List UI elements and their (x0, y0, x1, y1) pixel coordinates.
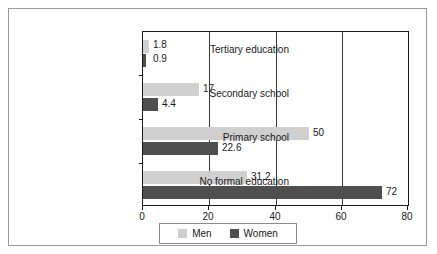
bar-men (143, 40, 149, 53)
category-label-tertiary: Tertiary education (210, 44, 289, 55)
legend-swatch-men-icon (178, 229, 187, 238)
bar-women (143, 186, 382, 199)
bar-women (143, 98, 158, 111)
chart-frame: 1.8 0.9 17 4.4 50 22.6 31.2 72 Tertiary … (8, 8, 427, 246)
bar-value-label: 0.9 (153, 54, 167, 64)
x-tick-label: 80 (401, 212, 412, 222)
category-label-no-formal: No formal education (200, 176, 290, 187)
chart-legend: Men Women (159, 223, 297, 244)
x-tick-label: 60 (335, 212, 346, 222)
x-tick (208, 206, 209, 210)
bar-men (143, 83, 199, 96)
bar-value-label: 22.6 (222, 143, 241, 153)
x-tick (142, 206, 143, 210)
legend-swatch-women-icon (230, 229, 239, 238)
x-tick-label: 0 (139, 212, 145, 222)
bar-value-label: 1.8 (153, 40, 167, 50)
x-tick (341, 206, 342, 210)
legend-label-women: Women (244, 229, 278, 239)
bar-women (143, 142, 218, 155)
x-tick (407, 206, 408, 210)
x-tick-label: 40 (269, 212, 280, 222)
x-tick (275, 206, 276, 210)
legend-item-women: Women (230, 229, 278, 239)
category-label-primary: Primary school (223, 132, 289, 143)
category-label-secondary: Secondary school (210, 88, 290, 99)
legend-item-men: Men (178, 229, 211, 239)
bar-women (143, 54, 146, 67)
legend-label-men: Men (192, 229, 211, 239)
bar-value-label: 72 (386, 187, 397, 197)
bar-value-label: 50 (313, 128, 324, 138)
bar-value-label: 4.4 (162, 99, 176, 109)
x-tick-label: 20 (202, 212, 213, 222)
